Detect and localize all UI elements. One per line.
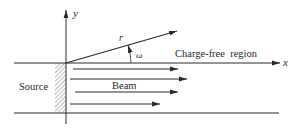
source-label: Source — [19, 81, 48, 92]
beam-diagram: y x r ω Charge-free region Beam Source — [0, 0, 305, 128]
y-axis-label: y — [72, 7, 78, 19]
omega-label: ω — [136, 50, 142, 60]
source-hatch — [55, 63, 66, 113]
omega-arc — [128, 45, 131, 63]
beam-label: Beam — [112, 80, 137, 91]
x-axis-label: x — [282, 56, 288, 68]
charge-free-region-label: Charge-free region — [175, 48, 258, 59]
r-label: r — [119, 32, 123, 43]
